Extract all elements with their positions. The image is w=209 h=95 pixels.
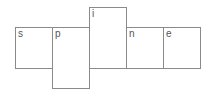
cell-label: e <box>166 28 172 40</box>
cell-label: n <box>129 28 135 40</box>
cell-p: p <box>52 27 90 89</box>
cell-n: n <box>126 27 164 69</box>
cell-s: s <box>15 27 53 69</box>
cell-label: p <box>55 28 61 40</box>
cell-e: e <box>163 27 201 69</box>
cell-i: i <box>89 7 127 69</box>
cell-label: i <box>92 8 94 20</box>
cell-label: s <box>18 28 23 40</box>
